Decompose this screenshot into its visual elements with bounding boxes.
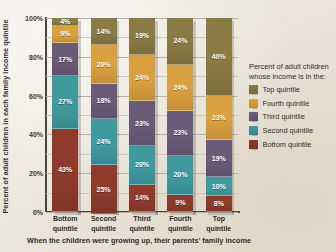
x-axis-title: When the children were growing up, their… bbox=[16, 236, 262, 245]
bar-segment[interactable]: 27% bbox=[52, 76, 78, 128]
legend-item[interactable]: Second quintile bbox=[249, 126, 335, 135]
bar-segment-value-label: 23% bbox=[212, 114, 226, 121]
stacked-bar[interactable]: 24%24%23%20%9% bbox=[167, 18, 193, 212]
legend-swatch-icon bbox=[249, 85, 258, 94]
bar-segment-value-label: 40% bbox=[212, 53, 226, 60]
bar-segment[interactable]: 19% bbox=[129, 18, 155, 55]
bar-segment[interactable]: 9% bbox=[167, 195, 193, 212]
bar-segment[interactable]: 9% bbox=[52, 26, 78, 43]
chart-legend: Percent of adult children whose income i… bbox=[249, 62, 335, 153]
bar-segment[interactable]: 4% bbox=[52, 18, 78, 26]
bar-segment-value-label: 19% bbox=[212, 155, 226, 162]
legend-swatch-icon bbox=[249, 140, 258, 149]
bar-segment[interactable]: 23% bbox=[167, 111, 193, 156]
stacked-bar[interactable]: 4%9%17%27%43% bbox=[52, 18, 78, 212]
stacked-bar[interactable]: 40%23%19%10%8% bbox=[206, 18, 232, 212]
legend-swatch-icon bbox=[249, 126, 258, 135]
bar-segment[interactable]: 17% bbox=[52, 43, 78, 76]
bar-segment[interactable]: 24% bbox=[167, 65, 193, 112]
y-axis-tick-label: 60% bbox=[29, 92, 43, 99]
bar-segment-value-label: 24% bbox=[97, 138, 111, 145]
y-axis-title: Percent of adult children in each family… bbox=[0, 0, 12, 232]
bar-segment-value-label: 24% bbox=[173, 84, 187, 91]
legend-item[interactable]: Fourth quintile bbox=[249, 99, 335, 108]
legend-item-label: Third quintile bbox=[263, 112, 305, 121]
bar-segment[interactable]: 23% bbox=[206, 96, 232, 141]
bar-segment-value-label: 14% bbox=[97, 28, 111, 35]
y-axis-tick-label: 80% bbox=[29, 53, 43, 60]
legend-item-list: Top quintileFourth quintileThird quintil… bbox=[249, 85, 335, 148]
bar-segment[interactable]: 24% bbox=[129, 55, 155, 102]
bar-segment[interactable]: 24% bbox=[167, 18, 193, 65]
chart-page: Percent of adult children in each family… bbox=[0, 0, 336, 252]
bar-segment-value-label: 23% bbox=[135, 120, 149, 127]
bar-segment-value-label: 20% bbox=[135, 161, 149, 168]
bar-segment-value-label: 8% bbox=[214, 200, 224, 207]
bar-segment-value-label: 23% bbox=[173, 129, 187, 136]
bar-segment[interactable]: 14% bbox=[91, 18, 117, 45]
legend-item-label: Bottom quintile bbox=[263, 140, 312, 149]
bar-segment[interactable]: 40% bbox=[206, 18, 232, 96]
bar-segment-value-label: 27% bbox=[58, 98, 72, 105]
bar-segment[interactable]: 20% bbox=[91, 45, 117, 84]
stacked-bar[interactable]: 19%24%23%20%14% bbox=[129, 18, 155, 212]
x-axis-category-label-line: Top bbox=[193, 214, 245, 224]
legend-item[interactable]: Bottom quintile bbox=[249, 140, 335, 149]
bar-segment-value-label: 17% bbox=[58, 56, 72, 63]
bar-segment[interactable]: 14% bbox=[129, 185, 155, 212]
bar-segment-value-label: 9% bbox=[60, 30, 70, 37]
legend-item-label: Top quintile bbox=[263, 85, 300, 94]
bar-segment[interactable]: 25% bbox=[91, 165, 117, 214]
bar-segment-value-label: 20% bbox=[173, 171, 187, 178]
x-axis-category-label: Topquintile bbox=[193, 214, 245, 233]
bar-segment-value-label: 43% bbox=[58, 166, 72, 173]
legend-swatch-icon bbox=[249, 112, 258, 121]
bar-segment[interactable]: 8% bbox=[206, 196, 232, 212]
bar-segment-value-label: 25% bbox=[97, 186, 111, 193]
legend-item-label: Second quintile bbox=[263, 126, 314, 135]
bar-segment[interactable]: 10% bbox=[206, 177, 232, 196]
legend-title: Percent of adult children whose income i… bbox=[249, 62, 335, 81]
bar-segment-value-label: 4% bbox=[60, 18, 70, 25]
bar-segment[interactable]: 19% bbox=[206, 140, 232, 177]
bar-segment[interactable]: 23% bbox=[129, 101, 155, 146]
bar-segment-value-label: 24% bbox=[135, 74, 149, 81]
bar-segment-value-label: 10% bbox=[212, 183, 226, 190]
legend-item[interactable]: Top quintile bbox=[249, 85, 335, 94]
y-axis-tick-label: 40% bbox=[29, 131, 43, 138]
plot-area: 0%20%40%60%80%100%4%9%17%27%43%14%20%18%… bbox=[46, 18, 238, 212]
legend-item[interactable]: Third quintile bbox=[249, 112, 335, 121]
y-axis-tick-label: 20% bbox=[29, 170, 43, 177]
bar-segment-value-label: 24% bbox=[173, 37, 187, 44]
bar-segment-value-label: 18% bbox=[97, 97, 111, 104]
bar-segment-value-label: 20% bbox=[97, 61, 111, 68]
bar-segment[interactable]: 20% bbox=[129, 146, 155, 185]
y-axis-tick-label: 100% bbox=[25, 15, 43, 22]
bar-segment-value-label: 19% bbox=[135, 32, 149, 39]
legend-item-label: Fourth quintile bbox=[263, 99, 310, 108]
bar-segment[interactable]: 24% bbox=[91, 119, 117, 166]
bar-segment-value-label: 9% bbox=[175, 199, 185, 206]
bar-segment[interactable]: 18% bbox=[91, 84, 117, 119]
bar-segment[interactable]: 43% bbox=[52, 129, 78, 212]
x-axis-category-label-line: quintile bbox=[193, 224, 245, 234]
bar-segment[interactable]: 20% bbox=[167, 156, 193, 195]
stacked-bar[interactable]: 14%20%18%24%25% bbox=[91, 18, 117, 212]
bar-segment-value-label: 14% bbox=[135, 194, 149, 201]
legend-swatch-icon bbox=[249, 99, 258, 108]
